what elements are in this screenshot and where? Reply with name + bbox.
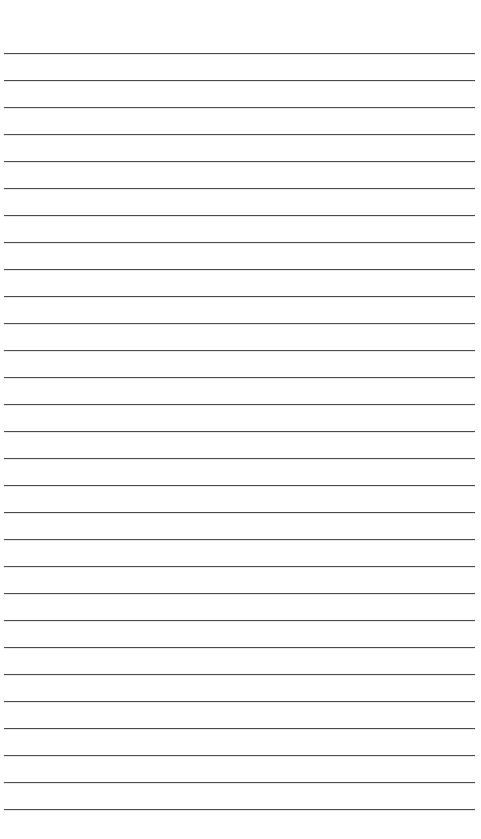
ruled-line [4,377,475,378]
ruled-line [4,296,475,297]
ruled-line [4,188,475,189]
ruled-line [4,728,475,729]
ruled-line [4,323,475,324]
ruled-line [4,458,475,459]
ruled-line [4,512,475,513]
ruled-line [4,404,475,405]
ruled-line [4,107,475,108]
ruled-line [4,809,475,810]
ruled-line [4,134,475,135]
ruled-line [4,593,475,594]
ruled-line [4,566,475,567]
ruled-line [4,269,475,270]
ruled-line [4,431,475,432]
ruled-line [4,647,475,648]
ruled-line [4,53,475,54]
ruled-line [4,620,475,621]
ruled-line [4,215,475,216]
ruled-line [4,161,475,162]
ruled-line [4,755,475,756]
ruled-line [4,674,475,675]
ruled-line [4,701,475,702]
ruled-line [4,350,475,351]
ruled-line [4,782,475,783]
ruled-line [4,80,475,81]
ruled-paper-page [0,0,481,839]
ruled-line [4,242,475,243]
ruled-line [4,485,475,486]
ruled-line [4,539,475,540]
